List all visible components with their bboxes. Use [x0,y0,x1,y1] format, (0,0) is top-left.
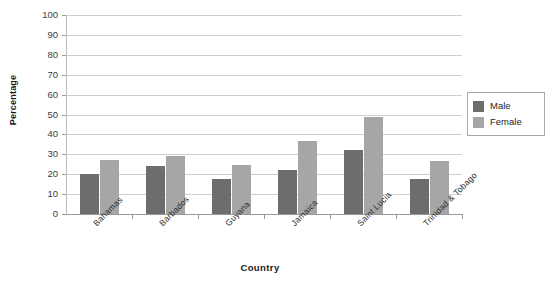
gridline [66,174,462,175]
gridline [66,115,462,116]
y-tick-mark [62,35,66,36]
x-tick-mark [198,214,199,219]
y-tick-mark [62,75,66,76]
y-tick-label: 20 [26,169,58,179]
y-tick-mark [62,55,66,56]
bar-chart: Percentage 0102030405060708090100 Bahama… [0,0,552,293]
y-tick-label: 10 [26,189,58,199]
x-tick-mark [396,214,397,219]
y-tick-mark [62,194,66,195]
x-axis-title: Country [160,262,360,273]
y-tick-mark [62,115,66,116]
y-tick-label: 90 [26,30,58,40]
legend-label-male: Male [490,101,511,111]
bar-male-1 [146,166,165,214]
x-tick-mark [264,214,265,219]
legend-item-male[interactable]: Male [473,98,540,114]
legend-swatch-male-icon [473,101,484,112]
gridline [66,35,462,36]
bar-male-5 [410,179,429,214]
y-axis-title: Percentage [8,60,18,140]
y-tick-mark [62,214,66,215]
y-tick-mark [62,154,66,155]
y-tick-label: 40 [26,129,58,139]
legend-item-female[interactable]: Female [473,114,540,130]
y-tick-label: 50 [26,110,58,120]
y-tick-mark [62,15,66,16]
bar-male-4 [344,150,363,214]
x-tick-mark [330,214,331,219]
y-tick-mark [62,95,66,96]
legend-label-female: Female [490,117,522,127]
y-tick-label: 0 [26,209,58,219]
gridline [66,95,462,96]
legend: Male Female [467,92,545,136]
y-tick-label: 80 [26,50,58,60]
gridline [66,134,462,135]
y-tick-label: 30 [26,149,58,159]
gridline [66,15,462,16]
bar-male-0 [80,174,99,214]
gridline [66,154,462,155]
bar-male-3 [278,170,297,214]
y-tick-label: 100 [26,10,58,20]
plot-area: 0102030405060708090100 [66,15,462,214]
x-tick-mark [462,214,463,219]
y-tick-label: 70 [26,70,58,80]
y-tick-label: 60 [26,90,58,100]
y-tick-mark [62,134,66,135]
gridline [66,75,462,76]
y-tick-mark [62,174,66,175]
bar-male-2 [212,179,231,214]
legend-swatch-female-icon [473,117,484,128]
x-tick-mark [132,214,133,219]
gridline [66,194,462,195]
gridline [66,55,462,56]
